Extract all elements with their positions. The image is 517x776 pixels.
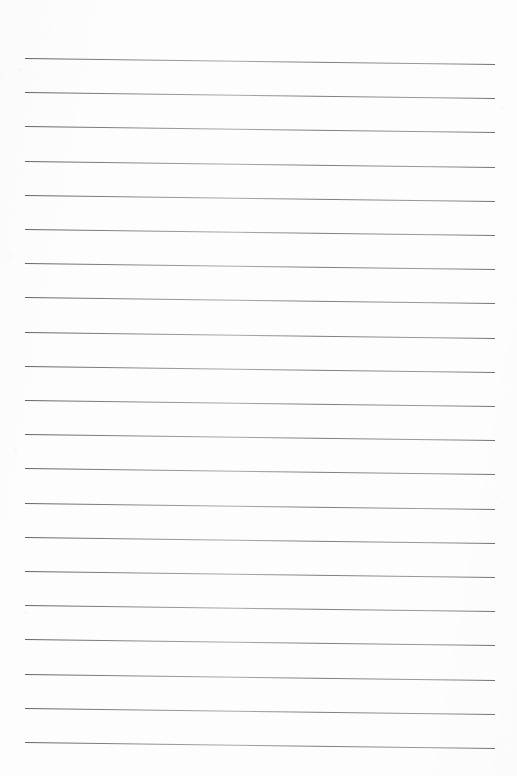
rule-line bbox=[25, 571, 495, 578]
rule-line bbox=[25, 400, 495, 407]
rule-line bbox=[25, 195, 495, 202]
paper-grain-texture bbox=[0, 0, 517, 776]
rule-line bbox=[25, 708, 495, 715]
rule-line bbox=[25, 742, 495, 749]
rule-line bbox=[25, 537, 495, 544]
rule-line bbox=[25, 674, 495, 681]
rule-line bbox=[25, 263, 495, 270]
rule-line bbox=[25, 297, 495, 304]
rule-line bbox=[25, 366, 495, 373]
lined-paper-page bbox=[0, 0, 517, 776]
rule-line bbox=[25, 161, 495, 168]
rule-line bbox=[25, 58, 495, 65]
rule-line bbox=[25, 468, 495, 475]
rule-line bbox=[25, 92, 495, 99]
rule-line bbox=[25, 126, 495, 133]
rule-line bbox=[25, 503, 495, 510]
rule-line bbox=[25, 434, 495, 441]
rule-line bbox=[25, 229, 495, 236]
rule-line bbox=[25, 605, 495, 612]
rule-line bbox=[25, 639, 495, 646]
rule-line bbox=[25, 332, 495, 339]
